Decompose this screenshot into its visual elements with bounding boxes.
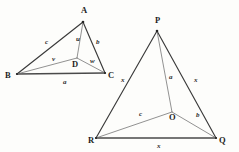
side-label-v-bd: v	[52, 55, 56, 63]
side-label-x-rq: x	[156, 142, 161, 150]
triangle-abc-group: A B C D c u b v w a	[5, 5, 114, 86]
edge-ro	[96, 112, 172, 138]
vertex-label-q: Q	[219, 135, 226, 145]
edge-pq	[157, 31, 216, 138]
vertex-label-c: C	[108, 70, 114, 80]
geometry-diagram: A B C D c u b v w a P	[0, 0, 239, 152]
side-label-x-pr: x	[120, 76, 125, 84]
vertex-dot-c	[104, 72, 106, 74]
side-label-a-bc: a	[63, 78, 67, 86]
vertex-label-r: R	[88, 135, 95, 145]
side-label-c-ab: c	[45, 38, 48, 46]
edge-ac	[83, 22, 105, 73]
side-label-w-dc: w	[90, 57, 95, 65]
vertex-dot-r	[95, 137, 97, 139]
side-label-u-ad: u	[76, 35, 80, 43]
vertex-label-b: B	[5, 70, 11, 80]
edge-po	[157, 31, 172, 112]
side-label-a-po: a	[169, 73, 173, 81]
edge-pr	[96, 31, 157, 138]
vertex-dot-q	[215, 137, 217, 139]
vertex-label-o: O	[169, 112, 176, 122]
side-label-x-pq: x	[193, 76, 198, 84]
vertex-label-p: P	[155, 15, 160, 25]
vertex-dot-p	[156, 30, 159, 33]
vertex-label-d: D	[72, 59, 78, 69]
edge-bc	[17, 73, 105, 74]
edge-bd	[17, 58, 77, 74]
side-label-b-oq: b	[196, 111, 200, 119]
vertex-dot-a	[82, 21, 85, 24]
vertex-dot-b	[16, 73, 18, 75]
vertex-label-a: A	[81, 5, 88, 15]
side-label-b-ac: b	[96, 38, 100, 46]
triangle-pqr-group: P R Q O x a x c b x	[88, 15, 226, 150]
side-label-c-ro: c	[139, 110, 142, 118]
geometry-figure-page: A B C D c u b v w a P	[0, 0, 239, 152]
